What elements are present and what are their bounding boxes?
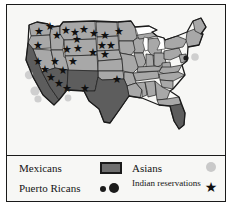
asian-marker — [34, 95, 41, 102]
asians-circle-icon — [206, 162, 216, 172]
puerto-ricans-small-dot-icon — [100, 186, 106, 192]
state-tennessee — [133, 71, 159, 81]
state-new-york — [164, 36, 187, 49]
state-kentucky — [137, 66, 162, 72]
legend-row: Mexicans Asians — [7, 158, 225, 180]
reservation-star: ★ — [62, 82, 72, 95]
legend-label-puerto-ricans: Puerto Ricans — [19, 183, 80, 194]
state-kansas — [98, 59, 123, 71]
asian-marker — [65, 95, 72, 102]
legend-label-mexicans: Mexicans — [19, 163, 62, 174]
reservation-star: ★ — [114, 25, 124, 38]
asian-marker — [191, 53, 199, 61]
state-pennsylvania — [164, 48, 182, 60]
reservation-star: ★ — [58, 64, 68, 77]
legend-label-asians: Asians — [132, 163, 162, 174]
reservation-star: ★ — [88, 46, 98, 59]
mexicans-swatch-icon — [100, 162, 122, 174]
map-panel: ★ ★ ★ ★ ★ ★ ★ ★ ★ ★ ★ ★ ★ ★ ★ ★ ★ ★ ★ ★ — [7, 5, 225, 155]
indian-reservation-star-icon: ★ — [204, 180, 218, 194]
asian-marker — [30, 86, 39, 95]
legend: Mexicans Asians Puerto Ricans Indian res… — [7, 156, 225, 201]
reservation-star: ★ — [106, 39, 116, 52]
reservation-star: ★ — [73, 42, 83, 55]
reservation-star: ★ — [40, 63, 50, 76]
united-states-map: ★ ★ ★ ★ ★ ★ ★ ★ ★ ★ ★ ★ ★ ★ ★ ★ ★ ★ ★ ★ — [7, 5, 225, 155]
reservation-star: ★ — [68, 55, 78, 68]
puerto-ricans-dots-icon — [100, 182, 126, 195]
puerto-ricans-large-dot-icon — [109, 183, 119, 193]
reservation-star: ★ — [112, 73, 122, 86]
reservation-star: ★ — [34, 25, 44, 38]
reservation-star: ★ — [33, 39, 43, 52]
figure-container: ★ ★ ★ ★ ★ ★ ★ ★ ★ ★ ★ ★ ★ ★ ★ ★ ★ ★ ★ ★ — [6, 4, 226, 202]
legend-row: Puerto Ricans Indian reservations ★ — [7, 178, 225, 200]
legend-label-indian-reservations: Indian reservations — [132, 179, 202, 189]
